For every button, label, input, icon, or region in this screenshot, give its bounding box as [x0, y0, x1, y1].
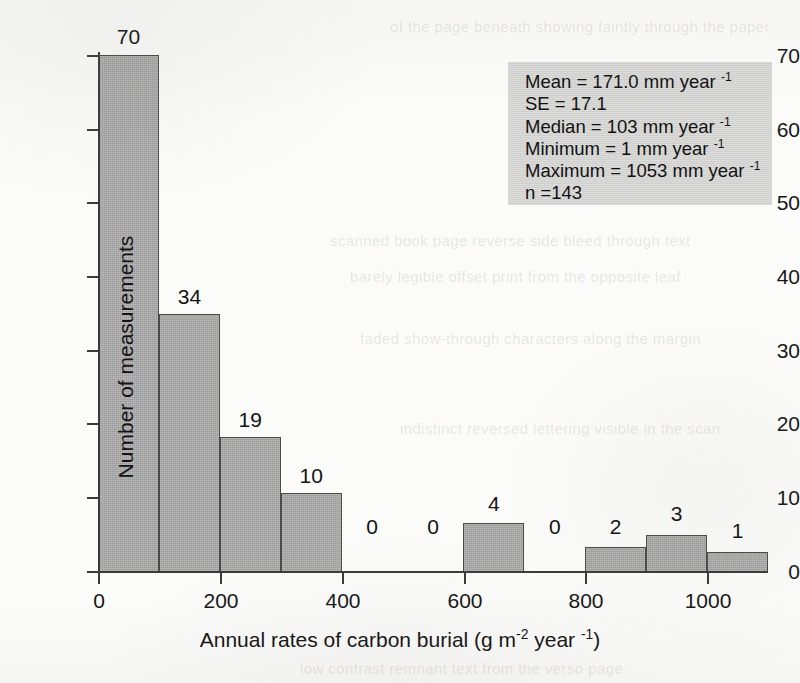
y-tick-40 — [87, 276, 98, 278]
x-axis-title-suffix: ) — [593, 628, 600, 651]
bar-bin-600-700 — [463, 523, 524, 572]
stat-mean-sup: -1 — [721, 70, 732, 84]
chart-page: of the page beneath showing faintly thro… — [0, 0, 800, 683]
stat-se: SE = 17.1 — [525, 93, 772, 115]
x-tick-label-800: 800 — [568, 589, 603, 613]
x-axis-line — [98, 571, 768, 573]
x-tick-label-1000: 1000 — [685, 589, 732, 613]
y-tick-60 — [87, 129, 98, 131]
stat-maximum-sup: -1 — [750, 159, 761, 173]
stat-n-text: n =143 — [525, 182, 582, 203]
x-tick-600 — [464, 572, 466, 584]
bar-value-label-900-1000: 3 — [671, 502, 683, 526]
x-tick-400 — [342, 572, 344, 584]
stat-mean-text: Mean = 171.0 mm year — [525, 71, 721, 92]
y-tick-label-0: 0 — [722, 560, 800, 584]
x-axis-title: Annual rates of carbon burial (g m-2 yea… — [0, 628, 800, 652]
bar-bin-900-1000 — [646, 535, 707, 572]
bar-value-label-800-900: 2 — [610, 515, 622, 539]
bar-bin-800-900 — [585, 547, 646, 572]
x-tick-1000 — [707, 572, 709, 584]
y-tick-label-10: 10 — [722, 486, 800, 510]
bar-value-label-1000-1100: 1 — [732, 519, 744, 543]
stat-n: n =143 — [525, 182, 772, 204]
stat-maximum: Maximum = 1053 mm year -1 — [525, 160, 772, 182]
x-axis-title-sup-area: -2 — [516, 626, 528, 642]
stat-maximum-text: Maximum = 1053 mm year — [525, 160, 750, 181]
bar-value-label-200-300: 19 — [239, 408, 262, 432]
bar-bin-300-400 — [281, 493, 342, 572]
y-tick-10 — [87, 497, 98, 499]
bar-value-label-700-800: 0 — [549, 515, 561, 539]
y-tick-label-20: 20 — [722, 412, 800, 436]
y-tick-30 — [87, 350, 98, 352]
x-axis-title-middle: year — [528, 628, 581, 651]
stat-minimum: Minimum = 1 mm year -1 — [525, 138, 772, 160]
x-tick-0 — [98, 572, 100, 584]
y-axis-title: Number of measurements — [114, 177, 138, 537]
y-tick-label-40: 40 — [722, 265, 800, 289]
ghost-text-line: low contrast remnant text from the verso… — [300, 660, 623, 677]
bar-value-label-0-100: 70 — [117, 25, 140, 49]
x-tick-label-400: 400 — [325, 589, 360, 613]
stat-median-sup: -1 — [720, 114, 731, 128]
y-tick-70 — [87, 55, 98, 57]
bar-bin-200-300 — [220, 437, 281, 572]
bar-value-label-500-600: 0 — [427, 515, 439, 539]
y-tick-0 — [87, 571, 98, 573]
bar-value-label-400-500: 0 — [366, 515, 378, 539]
x-tick-label-600: 600 — [447, 589, 482, 613]
stat-mean: Mean = 171.0 mm year -1 — [525, 71, 772, 93]
bar-value-label-100-200: 34 — [178, 285, 201, 309]
x-axis-title-sup-time: -1 — [581, 626, 593, 642]
stat-se-text: SE = 17.1 — [525, 93, 607, 114]
y-tick-20 — [87, 423, 98, 425]
x-tick-label-0: 0 — [93, 589, 105, 613]
x-tick-800 — [585, 572, 587, 584]
y-axis-line — [98, 52, 100, 574]
bar-value-label-600-700: 4 — [488, 492, 500, 516]
stat-median: Median = 103 mm year -1 — [525, 116, 772, 138]
ghost-text-line: of the page beneath showing faintly thro… — [390, 18, 770, 35]
bar-bin-100-200 — [159, 314, 220, 572]
stat-median-text: Median = 103 mm year — [525, 116, 720, 137]
stat-minimum-sup: -1 — [714, 137, 725, 151]
summary-statistics-box: Mean = 171.0 mm year -1 SE = 17.1 Median… — [508, 62, 772, 205]
bar-value-label-300-400: 10 — [300, 464, 323, 488]
x-tick-200 — [220, 572, 222, 584]
y-tick-50 — [87, 202, 98, 204]
stat-minimum-text: Minimum = 1 mm year — [525, 138, 714, 159]
x-axis-title-prefix: Annual rates of carbon burial (g m — [200, 628, 516, 651]
x-tick-label-200: 200 — [203, 589, 238, 613]
y-tick-label-30: 30 — [722, 339, 800, 363]
